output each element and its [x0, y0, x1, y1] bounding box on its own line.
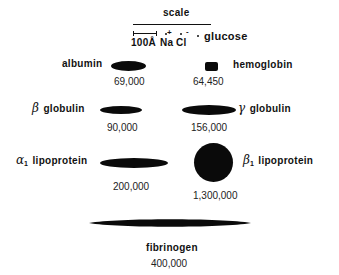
glucose-label: glucose	[204, 30, 248, 42]
alpha-subscript: 1	[24, 160, 28, 167]
alpha-symbol: α	[16, 153, 24, 167]
gamma-globulin-label: γ globulin	[238, 98, 291, 116]
scale-bar-100a	[133, 31, 157, 36]
chloride-charge: -	[186, 27, 189, 36]
hemoglobin-label: hemoglobin	[233, 59, 293, 70]
sodium-label: Na	[160, 37, 173, 48]
beta1-lipoprotein-label: β1 lipoprotein	[243, 150, 313, 168]
glucose-dot	[197, 35, 199, 37]
alpha1-lipoprotein-shape	[100, 158, 168, 168]
beta-globulin-label: β globulin	[32, 98, 85, 116]
gamma-globulin-name: globulin	[250, 103, 291, 114]
beta1-lipoprotein-name: lipoprotein	[258, 155, 313, 166]
hemoglobin-weight: 64,450	[193, 76, 224, 87]
scale-underline	[133, 24, 211, 25]
alpha1-lipoprotein-weight: 200,000	[113, 181, 149, 192]
gamma-symbol: γ	[238, 101, 245, 115]
beta1-symbol: β	[243, 153, 250, 167]
alpha1-lipoprotein-name: lipoprotein	[32, 155, 87, 166]
sodium-charge: +	[167, 28, 172, 37]
beta1-lipoprotein-weight: 1,300,000	[193, 190, 238, 201]
beta1-lipoprotein-shape	[194, 143, 233, 182]
gamma-globulin-weight: 156,000	[191, 122, 227, 133]
beta-globulin-shape	[100, 106, 142, 114]
gamma-globulin-shape	[182, 105, 236, 115]
alpha1-lipoprotein-label: α1 lipoprotein	[16, 150, 87, 168]
beta1-subscript: 1	[250, 160, 254, 167]
fibrinogen-label: fibrinogen	[146, 242, 198, 253]
chloride-label: Cl	[176, 37, 187, 48]
albumin-weight: 69,000	[114, 76, 145, 87]
scale-bar-label: 100Å	[131, 37, 156, 48]
fibrinogen-shape	[88, 217, 252, 229]
hemoglobin-shape	[205, 62, 218, 71]
chloride-ion-dot	[180, 33, 182, 35]
albumin-shape	[111, 61, 146, 71]
albumin-label: albumin	[62, 58, 102, 69]
beta-globulin-weight: 90,000	[107, 122, 138, 133]
beta-symbol: β	[32, 101, 39, 115]
beta-globulin-name: globulin	[43, 103, 84, 114]
fibrinogen-weight: 400,000	[151, 258, 187, 269]
scale-title: scale	[163, 7, 190, 18]
